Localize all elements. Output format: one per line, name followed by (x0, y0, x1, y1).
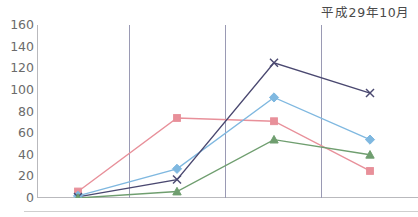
marker-square (174, 115, 181, 122)
line-chart-svg (37, 25, 418, 198)
series-line-series-navy (78, 63, 370, 197)
y-axis-tick-label: 20 (0, 170, 34, 183)
marker-diamond (365, 135, 374, 144)
marker-triangle (270, 135, 278, 143)
plot-area (37, 25, 418, 198)
y-axis-tick-label: 100 (0, 84, 34, 97)
marker-square (271, 118, 278, 125)
marker-square (367, 168, 374, 175)
y-axis-labels: 020406080100120140160 (0, 0, 34, 217)
chart-container: 平成29年10月 020406080100120140160 (0, 0, 418, 217)
y-axis-tick-label: 140 (0, 40, 34, 53)
bottom-divider (24, 211, 418, 212)
y-axis-tick-label: 160 (0, 19, 34, 32)
y-axis-tick-label: 80 (0, 105, 34, 118)
series-line-series-blue (78, 97, 370, 195)
y-axis-tick-label: 0 (0, 192, 34, 205)
marker-x (270, 59, 278, 67)
marker-x (366, 89, 374, 97)
series-line-series-pink (78, 118, 370, 192)
y-axis-tick-label: 40 (0, 149, 34, 162)
chart-title: 平成29年10月 (321, 2, 410, 21)
y-axis-tick-label: 60 (0, 127, 34, 140)
y-axis-tick-label: 120 (0, 62, 34, 75)
